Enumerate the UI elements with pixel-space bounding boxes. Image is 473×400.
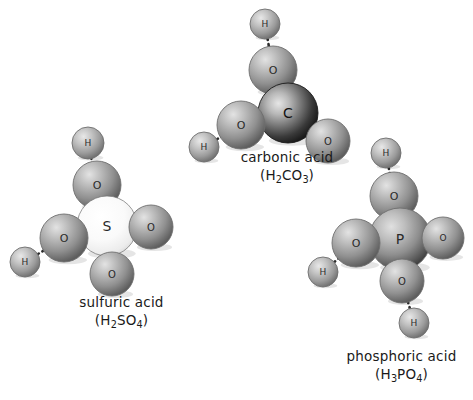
- caption-sulfuric-acid: sulfuric acid (H2SO4): [0, 294, 243, 331]
- atom-o-sulfuric-acid: O: [40, 214, 88, 264]
- atom-o-carbonic-acid: O: [217, 101, 265, 151]
- atom-label: H: [262, 19, 269, 29]
- molecule-name-sulfuric-acid: sulfuric acid: [0, 294, 243, 312]
- atom-label: S: [103, 218, 112, 234]
- molecule-formula-carbonic-acid: (H2CO3): [200, 167, 374, 187]
- atom-label: O: [237, 119, 246, 132]
- atom-label: O: [108, 269, 116, 280]
- atom-o-phosphoric-acid: O: [380, 259, 424, 305]
- atom-h-phosphoric-acid: H: [371, 138, 401, 169]
- atom-o-phosphoric-acid: O: [332, 219, 380, 269]
- molecule-formula-phosphoric-acid: (H3PO4): [330, 366, 473, 386]
- molecule-diagram-canvas: HOSOHOOHOCOHOHOPOHOOH sulfuric acid (H2S…: [0, 0, 473, 400]
- atom-label: O: [147, 222, 155, 233]
- atom-label: O: [324, 136, 332, 147]
- caption-phosphoric-acid: phosphoric acid (H3PO4): [330, 348, 473, 385]
- atom-h-sulfuric-acid: H: [72, 127, 104, 160]
- molecule-scene-svg: HOSOHOOHOCOHOHOPOHOOH: [0, 0, 473, 400]
- atom-label: O: [93, 179, 102, 192]
- atom-label: C: [283, 105, 293, 121]
- atom-label: O: [269, 64, 278, 77]
- caption-carbonic-acid: carbonic acid (H2CO3): [200, 149, 374, 186]
- atom-label: O: [60, 232, 69, 245]
- atom-label: O: [398, 276, 406, 287]
- atom-h-carbonic-acid: H: [250, 9, 280, 40]
- atom-o-sulfuric-acid: O: [90, 252, 134, 298]
- molecule-name-carbonic-acid: carbonic acid: [200, 149, 374, 167]
- atom-h-sulfuric-acid: H: [10, 247, 40, 278]
- atom-label: P: [396, 231, 404, 247]
- atom-h-phosphoric-acid: H: [308, 257, 338, 288]
- atom-o-sulfuric-acid: O: [129, 205, 173, 251]
- atom-label: O: [390, 190, 399, 203]
- atom-label: H: [411, 318, 418, 328]
- atom-h-phosphoric-acid: H: [399, 308, 429, 339]
- atom-label: O: [439, 233, 446, 243]
- atom-o-phosphoric-acid: O: [422, 217, 464, 261]
- molecule-name-phosphoric-acid: phosphoric acid: [330, 348, 473, 366]
- atom-label: H: [85, 138, 92, 148]
- atom-label: H: [320, 267, 327, 277]
- molecule-formula-sulfuric-acid: (H2SO4): [0, 312, 243, 332]
- atom-label: H: [383, 148, 390, 158]
- atom-label: H: [22, 257, 29, 267]
- atom-label: O: [352, 237, 361, 250]
